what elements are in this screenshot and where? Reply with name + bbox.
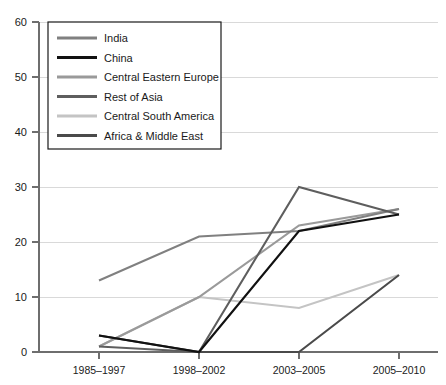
- series-line-africa-middle-east: [99, 275, 399, 352]
- y-tick-label-0: 0: [21, 346, 27, 358]
- y-tick-label-50: 50: [15, 71, 27, 83]
- y-tick-label-40: 40: [15, 126, 27, 138]
- y-tick-label-20: 20: [15, 236, 27, 248]
- x-tick-label-1: 1998–2002: [173, 364, 226, 376]
- legend-label-2: China: [104, 52, 134, 64]
- legend-label-4: Rest of Asia: [104, 91, 164, 103]
- chart-canvas: 60 50 40 30 20 10 0 1985–1997 1998–2002 …: [0, 0, 446, 385]
- legend-label-6: Africa & Middle East: [104, 130, 203, 142]
- legend-label-3: Central Eastern Europe: [104, 71, 219, 83]
- legend: IndiaChinaCentral Eastern EuropeRest of …: [48, 22, 221, 149]
- line-chart: 60 50 40 30 20 10 0 1985–1997 1998–2002 …: [0, 0, 446, 385]
- y-axis: 60 50 40 30 20 10 0: [15, 16, 39, 358]
- y-tick-label-30: 30: [15, 181, 27, 193]
- series-group: [99, 187, 399, 352]
- legend-label-1: India: [104, 32, 129, 44]
- series-line-central-eastern-europe: [99, 209, 399, 347]
- x-tick-label-3: 2005–2010: [373, 364, 426, 376]
- x-tick-label-2: 2003–2005: [273, 364, 326, 376]
- x-axis: 1985–1997 1998–2002 2003–2005 2005–2010: [39, 352, 438, 376]
- y-tick-label-10: 10: [15, 291, 27, 303]
- series-line-rest-of-asia: [99, 187, 399, 352]
- x-tick-label-0: 1985–1997: [73, 364, 126, 376]
- y-tick-label-60: 60: [15, 16, 27, 28]
- series-line-china: [99, 215, 399, 353]
- legend-label-5: Central South America: [104, 110, 215, 122]
